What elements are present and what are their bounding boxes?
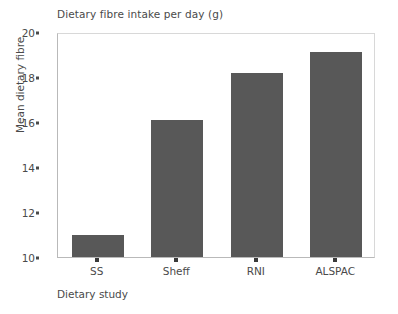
- x-axis: SSSheffRNIALSPAC: [57, 258, 375, 288]
- y-tick-label: 10: [22, 252, 35, 264]
- y-tick-mark: [36, 212, 39, 215]
- y-tick-label: 14: [22, 162, 35, 174]
- x-tick-mark: [174, 258, 178, 262]
- bar-chart-figure: Dietary fibre intake per day (g) 1012141…: [0, 0, 398, 314]
- x-tick-label: ALSPAC: [315, 265, 355, 277]
- y-tick-mark: [36, 122, 39, 125]
- x-tick-label: RNI: [247, 265, 265, 277]
- bar: [151, 120, 203, 257]
- bar: [231, 73, 283, 258]
- x-tick-mark: [333, 258, 337, 262]
- bars-layer: [58, 34, 374, 257]
- x-tick-label: SS: [90, 265, 103, 277]
- x-tick-label: Sheff: [163, 265, 190, 277]
- y-axis-label: Mean dietary fibre: [14, 37, 26, 133]
- x-axis-label: Dietary study: [57, 288, 128, 300]
- y-axis: 101214161820: [0, 0, 57, 259]
- chart-title: Dietary fibre intake per day (g): [57, 8, 223, 20]
- bar: [72, 235, 124, 258]
- y-tick-mark: [36, 32, 39, 35]
- bar: [310, 52, 362, 257]
- x-tick-mark: [95, 258, 99, 262]
- y-tick-mark: [36, 257, 39, 260]
- y-tick-mark: [36, 77, 39, 80]
- y-tick-mark: [36, 167, 39, 170]
- x-tick-mark: [254, 258, 258, 262]
- y-tick-label: 12: [22, 207, 35, 219]
- plot-area: [57, 33, 375, 258]
